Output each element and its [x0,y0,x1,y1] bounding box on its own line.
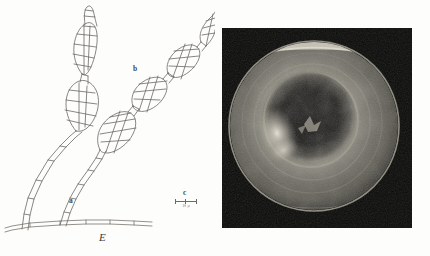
conidium-left-upper [73,23,97,75]
petri-dish-photo [222,28,412,228]
conidiophore-drawing [0,0,215,256]
photo-grain [222,28,412,228]
scale-bar-tick-right [196,199,197,204]
conidium-right-2 [132,76,167,112]
left-conidiophore-stalk [22,131,82,230]
drawing-label-a: a [69,196,73,205]
panel-f-photograph: F [215,0,430,256]
petri-dish-image [222,28,412,228]
conidium-connector-left [80,74,88,84]
conidium-right-4 [200,12,215,46]
drawing-label-c: c [183,188,186,197]
conidium-right-3 [167,44,200,79]
scale-bar-line [175,201,197,202]
right-conidiophore-stalk [60,150,106,226]
conidium-connector-right-3 [197,42,206,51]
drawing-label-b: b [133,64,137,73]
figure-plate: a b c 10 µ E [0,0,430,256]
scale-bar-units: 10 µ [177,203,196,208]
panel-e-caption: E [99,231,106,243]
basal-hypha [5,220,152,232]
panel-e-line-drawing: a b c 10 µ E [0,0,215,256]
conidium-right-1 [98,111,136,153]
conidium-left-lower [65,80,98,131]
